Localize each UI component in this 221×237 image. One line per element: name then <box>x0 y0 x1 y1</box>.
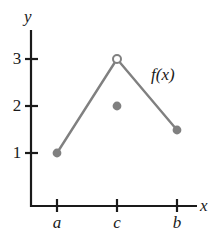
y-tick-label-2: 2 <box>10 97 24 114</box>
plot-canvas <box>0 0 221 237</box>
point-b-1-5 <box>173 126 182 135</box>
function-label: f(x) <box>151 66 175 83</box>
x-tick-label-a: a <box>50 214 64 231</box>
point-c-2 <box>113 102 122 111</box>
y-axis-label: y <box>24 8 32 25</box>
point-c-3-open <box>113 55 121 63</box>
point-a-1 <box>53 149 62 158</box>
y-tick-label-3: 3 <box>10 50 24 67</box>
x-tick-label-b: b <box>170 214 184 231</box>
x-axis-label: x <box>200 197 208 214</box>
x-tick-label-c: c <box>110 214 124 231</box>
function-graph-figure: y x f(x) 3 2 1 a c b <box>0 0 221 237</box>
y-tick-label-1: 1 <box>10 144 24 161</box>
